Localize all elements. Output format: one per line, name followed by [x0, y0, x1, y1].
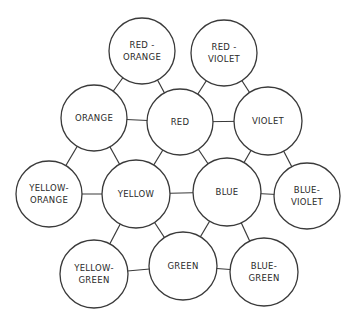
- node-label: GREEN: [78, 275, 109, 285]
- node-label: VIOLET: [252, 116, 285, 126]
- node-label: BLUE-: [251, 261, 277, 271]
- node-label: RED -: [129, 40, 154, 50]
- node-blue-violet: BLUE-VIOLET: [274, 163, 340, 229]
- node-label: YELLOW-: [73, 263, 114, 273]
- node-circle: [274, 163, 340, 229]
- node-label: BLUE-: [294, 185, 320, 195]
- node-yellow-green: YELLOW-GREEN: [60, 240, 128, 308]
- node-label: GREEN: [167, 261, 198, 271]
- node-label: VIOLET: [291, 197, 324, 207]
- node-label: ORANGE: [123, 52, 161, 62]
- node-label: VIOLET: [208, 54, 241, 64]
- node-label: ORANGE: [75, 113, 113, 123]
- node-label: RED: [171, 117, 190, 127]
- node-orange: ORANGE: [61, 85, 127, 151]
- node-green: GREEN: [149, 232, 217, 300]
- node-circle: [230, 238, 298, 306]
- node-blue: BLUE: [193, 158, 261, 226]
- node-yellow-orange: YELLOW-ORANGE: [16, 161, 82, 227]
- node-label: BLUE: [216, 187, 239, 197]
- node-violet: VIOLET: [234, 87, 302, 155]
- node-yellow: YELLOW: [102, 160, 170, 228]
- node-blue-green: BLUE-GREEN: [230, 238, 298, 306]
- node-label: ORANGE: [30, 195, 68, 205]
- node-red-orange: RED -ORANGE: [109, 18, 175, 84]
- node-circle: [60, 240, 128, 308]
- node-label: YELLOW-: [28, 183, 69, 193]
- node-label: RED -: [211, 42, 236, 52]
- node-circle: [16, 161, 82, 227]
- node-circle: [109, 18, 175, 84]
- node-label: YELLOW: [117, 189, 155, 199]
- node-label: GREEN: [248, 273, 279, 283]
- node-circle: [191, 20, 257, 86]
- node-red: RED: [147, 89, 213, 155]
- node-red-violet: RED -VIOLET: [191, 20, 257, 86]
- nodes: RED -ORANGERED -VIOLETORANGEREDVIOLETYEL…: [16, 18, 340, 308]
- color-relationship-diagram: RED -ORANGERED -VIOLETORANGEREDVIOLETYEL…: [0, 0, 357, 325]
